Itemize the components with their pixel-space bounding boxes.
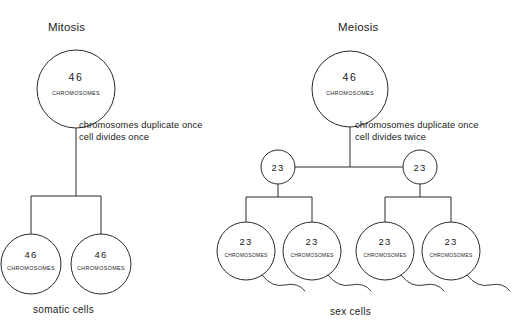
- meiosis-gamete-2-circle: [283, 222, 341, 280]
- mitosis-meiosis-diagram: Mitosis 46 CHROMOSOMES chromosomes dupli…: [0, 0, 531, 332]
- mitosis-description-line1: chromosomes duplicate once: [79, 120, 203, 130]
- meiosis-gamete-2-count: 23: [306, 236, 319, 247]
- meiosis-gamete-1-flagellum: [262, 275, 305, 291]
- meiosis-intermediate-1-count: 23: [272, 162, 285, 173]
- mitosis-daughter-cell-2: 46 CHROMOSOMES: [71, 234, 131, 294]
- meiosis-gamete-4-circle: [422, 222, 480, 280]
- meiosis-parent-cell: 46 CHROMOSOMES: [312, 51, 388, 127]
- meiosis-gamete-4-flagellum: [467, 275, 510, 291]
- mitosis-daughter-2-unit: CHROMOSOMES: [77, 265, 125, 271]
- mitosis-daughter-2-count: 46: [95, 249, 108, 260]
- meiosis-gamete-3-flagellum: [401, 275, 444, 291]
- meiosis-second-division-left-connector: [246, 184, 312, 222]
- meiosis-gamete-3-count: 23: [379, 236, 392, 247]
- meiosis-gamete-3-circle: [356, 222, 414, 280]
- mitosis-parent-unit: CHROMOSOMES: [52, 90, 100, 96]
- meiosis-parent-circle: [312, 51, 388, 127]
- mitosis-description: chromosomes duplicate once cell divides …: [79, 120, 203, 142]
- mitosis-description-line2: cell divides once: [79, 132, 149, 142]
- meiosis-gamete-3-unit: CHROMOSOMES: [363, 253, 407, 258]
- meiosis-gamete-2-flagellum: [328, 275, 371, 291]
- mitosis-title: Mitosis: [48, 21, 85, 33]
- somatic-cells-label: somatic cells: [33, 304, 94, 315]
- meiosis-parent-unit: CHROMOSOMES: [326, 90, 374, 96]
- mitosis-daughter-1-count: 46: [25, 249, 38, 260]
- meiosis-intermediate-2-count: 23: [414, 162, 427, 173]
- meiosis-gamete-1-unit: CHROMOSOMES: [224, 253, 268, 258]
- meiosis-description-line1: chromosomes duplicate once: [355, 120, 479, 130]
- mitosis-parent-count: 46: [69, 71, 84, 83]
- meiosis-description: chromosomes duplicate once cell divides …: [355, 120, 479, 142]
- meiosis-description-line2: cell divides twice: [355, 132, 426, 142]
- meiosis-group: Meiosis 46 CHROMOSOMES chromosomes dupli…: [217, 21, 510, 317]
- meiosis-gamete-4-count: 23: [445, 236, 458, 247]
- meiosis-gamete-cell-4: 23 CHROMOSOMES: [422, 222, 510, 291]
- meiosis-intermediate-cell-1: 23: [261, 150, 295, 184]
- meiosis-gamete-1-circle: [217, 222, 275, 280]
- meiosis-parent-count: 46: [343, 71, 358, 83]
- mitosis-parent-circle: [37, 50, 115, 128]
- meiosis-gamete-2-unit: CHROMOSOMES: [290, 253, 334, 258]
- mitosis-daughter-1-circle: [1, 234, 61, 294]
- meiosis-second-division-right-connector: [385, 184, 451, 222]
- meiosis-gamete-1-count: 23: [240, 236, 253, 247]
- meiosis-gamete-4-unit: CHROMOSOMES: [429, 253, 473, 258]
- sex-cells-label: sex cells: [330, 306, 371, 317]
- mitosis-parent-cell: 46 CHROMOSOMES: [37, 50, 115, 128]
- diagram-canvas: Mitosis 46 CHROMOSOMES chromosomes dupli…: [0, 0, 531, 332]
- mitosis-daughter-cell-1: 46 CHROMOSOMES: [1, 234, 61, 294]
- mitosis-daughter-2-circle: [71, 234, 131, 294]
- mitosis-daughter-1-unit: CHROMOSOMES: [7, 265, 55, 271]
- meiosis-title: Meiosis: [338, 21, 378, 33]
- meiosis-intermediate-cell-2: 23: [403, 150, 437, 184]
- mitosis-group: Mitosis 46 CHROMOSOMES chromosomes dupli…: [1, 21, 203, 315]
- mitosis-split-connector: [31, 196, 101, 234]
